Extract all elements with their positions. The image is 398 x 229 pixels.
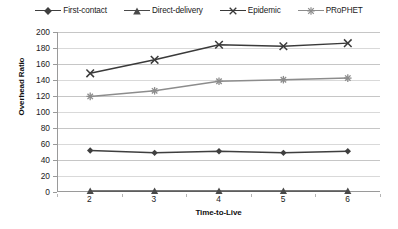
x-axis-title: Time-to-Live xyxy=(57,208,380,217)
series-prophet xyxy=(86,74,351,100)
y-tick-label: 80 xyxy=(41,123,50,133)
diamond-marker xyxy=(280,150,286,156)
y-tick-label: 0 xyxy=(45,187,50,197)
y-axis-tick-labels: 020406080100120140160180200 xyxy=(0,32,55,192)
y-tick-label: 140 xyxy=(36,75,50,85)
epidemic-series-icon xyxy=(220,6,246,15)
series-epidemic xyxy=(86,39,351,77)
legend-label-prophet: PRoPHET xyxy=(326,6,363,15)
asterisk-marker xyxy=(86,93,94,101)
legend-label-direct-delivery: Direct-delivery xyxy=(152,6,203,15)
x-tick-label: 4 xyxy=(216,194,221,204)
direct-delivery-series-icon xyxy=(124,6,150,15)
plot-area xyxy=(57,32,380,192)
x-tick-label: 6 xyxy=(345,194,350,204)
legend-item-epidemic: Epidemic xyxy=(220,6,281,15)
diamond-marker xyxy=(151,150,157,156)
y-tick-label: 200 xyxy=(36,27,50,37)
asterisk-marker xyxy=(280,76,288,84)
series-first-contact xyxy=(87,147,351,156)
legend-item-prophet: PRoPHET xyxy=(298,6,363,15)
legend-item-first-contact: First-contact xyxy=(35,6,107,15)
x-axis-minor-tick xyxy=(57,194,58,197)
x-axis-minor-tick xyxy=(251,194,252,197)
chart-legend: First-contact Direct-delivery xyxy=(0,6,398,15)
prophet-series-icon xyxy=(298,6,324,15)
y-tick-label: 60 xyxy=(41,139,50,149)
y-tick-label: 20 xyxy=(41,171,50,181)
legend-item-direct-delivery: Direct-delivery xyxy=(124,6,203,15)
y-tick-mark xyxy=(53,192,57,193)
legend-label-first-contact: First-contact xyxy=(63,6,107,15)
y-tick-label: 160 xyxy=(36,59,50,69)
y-tick-label: 100 xyxy=(36,107,50,117)
diamond-marker xyxy=(87,147,93,153)
diamond-marker xyxy=(216,148,222,154)
data-series-layer xyxy=(58,32,380,191)
y-tick-label: 180 xyxy=(36,43,50,53)
y-tick-label: 40 xyxy=(41,155,50,165)
y-tick-label: 120 xyxy=(36,91,50,101)
asterisk-marker xyxy=(151,87,159,95)
asterisk-marker xyxy=(344,74,352,82)
series-line xyxy=(90,43,348,73)
x-tick-label: 2 xyxy=(87,194,92,204)
x-axis-minor-tick xyxy=(122,194,123,197)
overhead-ratio-line-chart: First-contact Direct-delivery xyxy=(0,0,398,229)
x-tick-label: 5 xyxy=(281,194,286,204)
x-axis-minor-tick xyxy=(380,194,381,197)
first-contact-series-icon xyxy=(35,6,61,15)
asterisk-marker xyxy=(215,78,223,86)
x-tick-label: 3 xyxy=(152,194,157,204)
x-axis-minor-tick xyxy=(315,194,316,197)
x-axis-tick-labels: 23456 xyxy=(57,194,380,208)
x-axis-minor-tick xyxy=(186,194,187,197)
diamond-marker xyxy=(345,148,351,154)
legend-label-epidemic: Epidemic xyxy=(248,6,281,15)
